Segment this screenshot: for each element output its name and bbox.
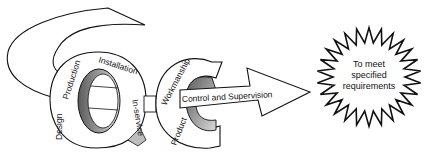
label-design: Design	[54, 113, 64, 140]
star-line-1: To meet	[353, 59, 386, 69]
qc-diagram: Control and Supervision Design Productio…	[0, 0, 424, 168]
star-line-2: specified	[351, 70, 387, 80]
requirements-starburst: To meet specified requirements	[317, 28, 420, 127]
connector-bar	[144, 96, 156, 112]
star-line-3: requirements	[343, 81, 396, 91]
